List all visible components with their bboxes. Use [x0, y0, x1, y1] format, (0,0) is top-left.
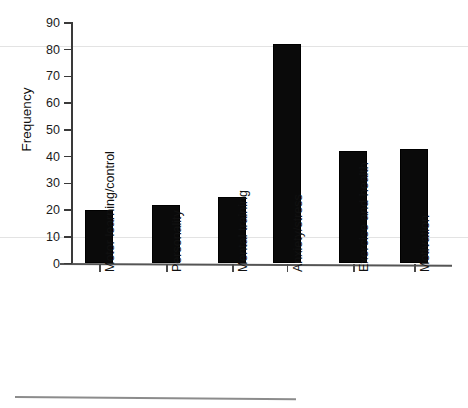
y-tick-label-text: 90 [0, 17, 60, 30]
y-tick-label: 70 [0, 70, 60, 82]
y-tick-label: 40 [0, 151, 60, 163]
x-tick-label: Exercise and health [358, 162, 371, 272]
y-tick-label-text: 70 [0, 70, 60, 83]
x-tick-mark [232, 264, 234, 272]
y-tick-label: 20 [0, 204, 60, 216]
chart-page: Frequency 0102030405060708090 Motor lear… [0, 0, 468, 408]
x-axis-line [60, 263, 452, 267]
x-tick-mark [166, 264, 168, 272]
y-tick-label-text: 50 [0, 124, 60, 137]
y-tick-label: 90 [0, 17, 60, 29]
y-tick-mark [64, 183, 72, 185]
y-tick-label: 50 [0, 124, 60, 136]
y-tick-mark [64, 236, 72, 238]
y-tick-label-text: 60 [0, 97, 60, 110]
y-tick-mark [64, 22, 72, 24]
y-tick-mark [64, 76, 72, 78]
y-tick-mark [64, 49, 72, 51]
y-tick-label-text: 10 [0, 231, 60, 244]
x-tick-label: Anxiety/stress [292, 194, 305, 272]
y-tick-mark [64, 129, 72, 131]
y-tick-label: 80 [0, 44, 60, 56]
y-tick-label-text: 20 [0, 204, 60, 217]
x-tick-mark [353, 264, 355, 272]
y-tick-label: 30 [0, 177, 60, 189]
x-tick-mark [99, 264, 101, 272]
y-tick-mark [64, 263, 72, 265]
y-tick-mark [64, 156, 72, 158]
x-tick-mark [414, 264, 416, 272]
x-tick-label: Motivation [419, 215, 432, 272]
y-tick-label: 0 [0, 258, 60, 270]
x-tick-label: Personality [171, 210, 184, 272]
y-tick-label: 60 [0, 97, 60, 109]
y-tick-label-text: 40 [0, 151, 60, 164]
y-tick-mark [64, 209, 72, 211]
bar-chart-plot: Frequency 0102030405060708090 Motor lear… [0, 0, 468, 408]
y-tick-label-text: 30 [0, 177, 60, 190]
y-tick-mark [64, 102, 72, 104]
y-tick-label-text: 80 [0, 44, 60, 57]
x-tick-mark [287, 264, 289, 272]
y-tick-label-text: 0 [0, 258, 60, 271]
x-tick-label: Motor learning/control [104, 151, 117, 272]
y-axis-line [71, 22, 73, 265]
y-tick-label: 10 [0, 231, 60, 243]
x-tick-label: Mental training [237, 190, 250, 272]
